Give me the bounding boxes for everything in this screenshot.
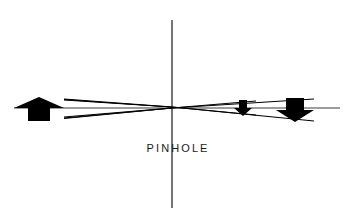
upward-arrow-object — [14, 97, 64, 121]
pinhole-caption-label: PINHOLE — [0, 142, 354, 154]
ray-diagram-canvas — [0, 0, 354, 222]
ray-object-bottom-to-small-image-top — [64, 101, 256, 117]
pinhole-diagram-figure: PINHOLE — [0, 0, 354, 222]
ray-cone-left-lower-fill — [64, 108, 172, 119]
ray-cone-left-upper-fill — [64, 99, 172, 108]
